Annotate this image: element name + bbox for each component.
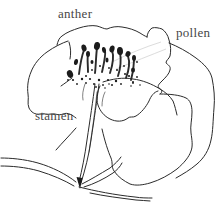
- label-anther: anther: [58, 7, 92, 20]
- ground-and-leaf-lines: [1, 157, 152, 201]
- petal-left-outline: [28, 41, 76, 150]
- diagram-canvas: anther pollen stamen: [0, 0, 218, 213]
- label-pollen: pollen: [176, 26, 210, 39]
- label-stamen: stamen: [35, 109, 74, 122]
- petal-top-outline: [57, 26, 147, 59]
